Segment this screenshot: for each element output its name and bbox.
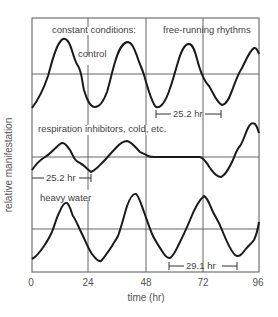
x-tick-72: 72 <box>197 277 208 288</box>
x-tick-24: 24 <box>82 277 93 288</box>
x-tick-0: 0 <box>28 277 34 288</box>
x-tick-48: 48 <box>140 277 151 288</box>
annotation-heavy-water-period-label: 29.1 hr <box>186 260 216 271</box>
series-heavy-water <box>32 194 259 261</box>
label-respiration-inhibitors: respiration inhibitors, cold, etc. <box>38 123 166 134</box>
x-tick-96: 96 <box>252 277 263 288</box>
annotation-respiration-period-label: 25.2 hr <box>46 172 76 183</box>
y-axis-label: relative manifestation <box>3 118 14 213</box>
x-axis-label: time (hr) <box>127 292 164 303</box>
label-control: control <box>78 48 107 59</box>
chart-canvas <box>0 0 278 317</box>
label-heavy-water: heavy water <box>40 192 91 203</box>
annotation-control-period-label: 25.2 hr <box>173 108 203 119</box>
label-constant-conditions: constant conditions: <box>52 24 136 35</box>
label-free-running-rhythms: free-running rhythms <box>163 24 251 35</box>
series-control <box>32 39 259 108</box>
